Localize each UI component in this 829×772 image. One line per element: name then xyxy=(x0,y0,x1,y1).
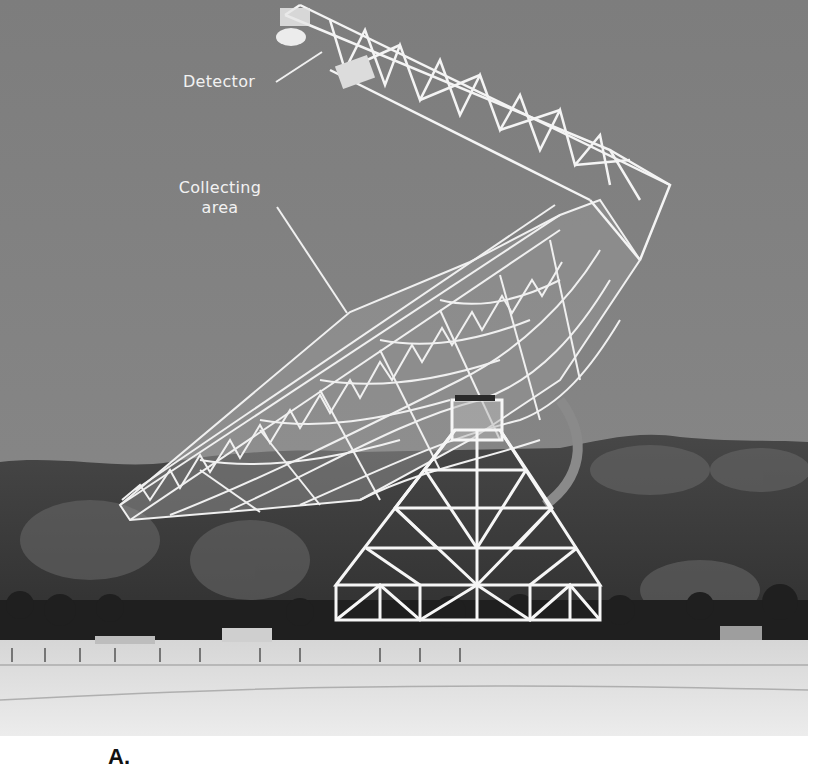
figure-caption-letter: A. xyxy=(108,744,130,770)
telescope-photo xyxy=(0,0,808,736)
collecting-area-label: Collecting area xyxy=(160,178,280,218)
detector-label-text: Detector xyxy=(183,72,255,91)
collecting-area-label-line1: Collecting xyxy=(160,178,280,198)
telescope-figure: Detector Collecting area A. xyxy=(0,0,829,772)
collecting-area-label-line2: area xyxy=(160,198,280,218)
detector-label: Detector xyxy=(183,72,255,92)
